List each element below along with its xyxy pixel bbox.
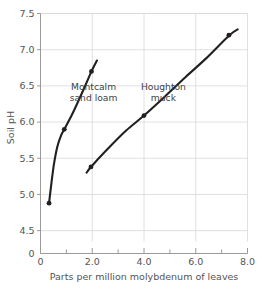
x-axis-title: Parts per million molybdenum of leaves <box>50 271 239 282</box>
y-origin-label: 0 <box>28 248 34 259</box>
series-label-line2-2: muck <box>151 92 177 103</box>
data-point-marker <box>226 33 231 38</box>
x-tick-label: 0 <box>37 256 43 267</box>
x-tick-label: 2.0 <box>85 256 100 267</box>
y-tick-label: 5.5 <box>19 153 34 164</box>
data-point-marker <box>47 201 52 206</box>
x-tick-label: 8.0 <box>240 256 255 267</box>
data-point-marker <box>142 113 147 118</box>
data-point-marker <box>62 127 67 132</box>
chart-container: 4.55.05.56.06.57.07.5002.04.06.08.0Montc… <box>0 0 265 290</box>
soil-ph-vs-molybdenum-chart: 4.55.05.56.06.57.07.5002.04.06.08.0Montc… <box>0 0 265 290</box>
data-point-marker <box>89 165 94 170</box>
data-point-marker <box>89 69 94 74</box>
y-axis-title: Soil pH <box>5 111 16 144</box>
y-tick-label: 5.0 <box>19 189 34 200</box>
y-tick-label: 7.5 <box>19 8 34 19</box>
y-tick-label: 4.5 <box>19 225 34 236</box>
x-tick-label: 6.0 <box>188 256 203 267</box>
y-tick-label: 7.0 <box>19 44 34 55</box>
series-label-line1-2: Houghton <box>141 81 186 92</box>
series-label-line1-1: Montcalm <box>71 81 116 92</box>
y-tick-label: 6.5 <box>19 80 34 91</box>
y-tick-label: 6.0 <box>19 116 34 127</box>
series-label-line2-1: sand loam <box>70 92 118 103</box>
x-tick-label: 4.0 <box>136 256 151 267</box>
